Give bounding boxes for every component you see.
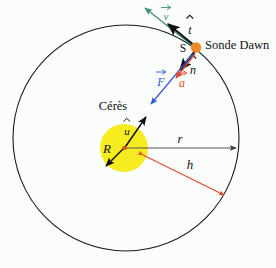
svg-text:F: F [156,75,165,89]
svg-text:n: n [190,63,196,77]
svg-text:a: a [179,76,185,90]
svg-text:v: v [164,10,169,22]
altitude-label: h [187,157,194,172]
orbital-diagram: r h u R Cérès v t n F a S [0,0,276,268]
spacecraft-point-label: S [180,42,186,54]
ceres-label: Cérès [99,99,128,113]
spacecraft-label: Sonde Dawn [205,38,270,52]
ceres-center-dot [122,146,126,150]
spacecraft-marker [191,42,201,52]
svg-text:u: u [124,125,130,137]
ceres-radius-label: R [102,141,111,156]
